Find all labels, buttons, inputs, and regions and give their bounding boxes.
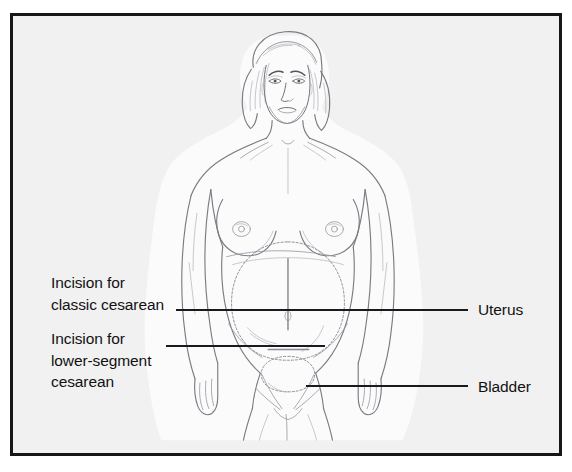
label-lower-segment-line2: lower-segment [51, 350, 151, 372]
leader-line-classic-cesarean [176, 309, 345, 311]
leader-line-lower-segment [166, 345, 325, 347]
label-lower-segment-line3: cesarean [51, 371, 151, 393]
label-lower-segment-line1: Incision for [51, 328, 151, 350]
label-lower-segment-cesarean: Incision for lower-segment cesarean [51, 328, 151, 393]
label-uterus: Uterus [478, 299, 523, 321]
label-classic-cesarean-line2: classic cesarean [51, 294, 164, 316]
leader-line-bladder [306, 385, 468, 387]
label-classic-cesarean: Incision for classic cesarean [51, 272, 164, 315]
figure-root: .body-line { fill: none; stroke: #7a7a82… [0, 0, 572, 472]
leader-line-uterus [335, 309, 468, 311]
label-bladder: Bladder [478, 376, 531, 398]
label-classic-cesarean-line1: Incision for [51, 272, 164, 294]
figure-frame: .body-line { fill: none; stroke: #7a7a82… [10, 13, 562, 456]
